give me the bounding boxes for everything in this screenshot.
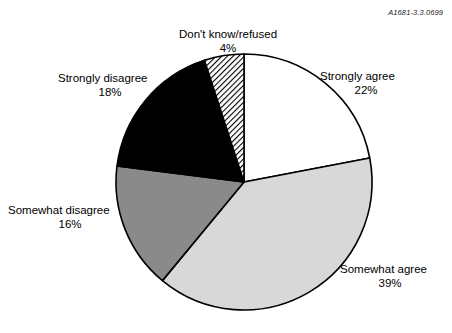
- slice-label-somewhat-disagree: Somewhat disagree 16%: [8, 203, 142, 231]
- slice-label-name: Somewhat disagree: [8, 203, 142, 217]
- slice-label-strongly-agree: Strongly agree 22%: [320, 69, 430, 97]
- slice-label-strongly-disagree: Strongly disagree 18%: [58, 71, 176, 99]
- slice-label-value: 16%: [8, 217, 132, 231]
- slice-label-name: Strongly agree: [320, 69, 430, 83]
- slice-label-name: Strongly disagree: [58, 71, 176, 85]
- slice-label-value: 4%: [162, 41, 294, 55]
- slice-label-somewhat-agree: Somewhat agree 39%: [340, 262, 452, 290]
- slice-label-value: 18%: [58, 85, 162, 99]
- pie-chart-figure: A1681-3.3.0699 Don't know/refused 4% Str…: [0, 0, 452, 333]
- slice-label-name: Somewhat agree: [340, 262, 452, 276]
- slice-label-value: 22%: [320, 83, 412, 97]
- slice-label-dont-know-refused: Don't know/refused 4%: [162, 27, 294, 55]
- slice-label-value: 39%: [340, 276, 440, 290]
- slice-label-name: Don't know/refused: [162, 27, 294, 41]
